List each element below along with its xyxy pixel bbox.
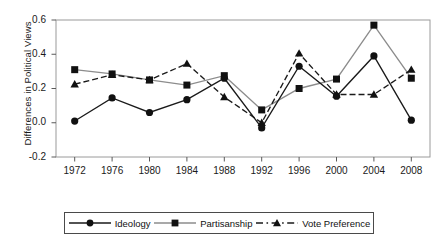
legend-label-vote-preference: Vote Preference [302, 218, 370, 229]
legend-swatch-square-icon [153, 217, 197, 229]
x-tick-label: 2008 [391, 165, 431, 176]
marker-partisanship [71, 66, 78, 73]
x-tick-label: 1976 [92, 165, 132, 176]
x-tick-label: 1984 [167, 165, 207, 176]
marker-partisanship [183, 82, 190, 89]
y-tick-label: 0.2 [20, 82, 46, 93]
marker-ideology [408, 117, 415, 124]
marker-vote-preference [295, 49, 303, 56]
y-tick-label: -0.2 [20, 151, 46, 162]
marker-ideology [109, 94, 116, 101]
marker-partisanship [258, 106, 265, 113]
marker-ideology [146, 109, 153, 116]
series-line-vote-preference [75, 53, 412, 122]
legend-swatch-circle-icon [68, 217, 112, 229]
marker-ideology [221, 75, 228, 82]
chart-figure: Differences in Political Views 0.60.40.2… [0, 0, 439, 243]
chart-legend: Ideology Partisanship Vote Preference [64, 212, 374, 234]
marker-partisanship [333, 76, 340, 83]
x-tick-label: 1972 [55, 165, 95, 176]
legend-item-vote-preference[interactable]: Vote Preference [255, 217, 370, 229]
legend-swatch-triangle-icon [255, 217, 299, 229]
marker-partisanship [408, 75, 415, 82]
marker-ideology [258, 124, 265, 131]
x-tick-label: 1988 [204, 165, 244, 176]
marker-vote-preference [407, 65, 415, 72]
y-tick-label: 0.0 [20, 116, 46, 127]
marker-partisanship [296, 85, 303, 92]
y-tick-label: 0.4 [20, 48, 46, 59]
marker-ideology [370, 52, 377, 59]
marker-ideology [183, 96, 190, 103]
x-tick-label: 1996 [279, 165, 319, 176]
legend-item-ideology[interactable]: Ideology [68, 217, 151, 229]
marker-ideology [296, 63, 303, 70]
x-tick-label: 1992 [242, 165, 282, 176]
marker-ideology [333, 93, 340, 100]
plot-frame [56, 20, 430, 157]
y-tick-label: 0.6 [20, 14, 46, 25]
plot-area [0, 0, 439, 243]
legend-label-partisanship: Partisanship [200, 218, 252, 229]
marker-partisanship [370, 22, 377, 29]
marker-ideology [71, 117, 78, 124]
legend-item-partisanship[interactable]: Partisanship [153, 217, 252, 229]
x-tick-label: 1980 [130, 165, 170, 176]
legend-label-ideology: Ideology [115, 218, 151, 229]
x-tick-label: 2000 [317, 165, 357, 176]
x-tick-label: 2004 [354, 165, 394, 176]
series-line-partisanship [75, 25, 412, 110]
marker-vote-preference [183, 59, 191, 66]
